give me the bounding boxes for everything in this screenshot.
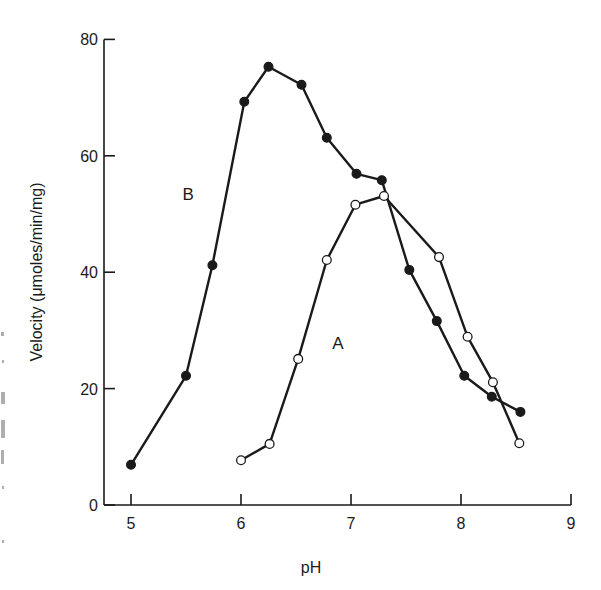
data-point [265,440,274,449]
data-point [240,97,249,106]
chart: 02040608056789 B A pH Velocity (μmoles/m… [0,0,601,590]
data-point [237,456,246,465]
series-a [241,196,519,460]
data-point [351,200,360,209]
data-point [463,332,472,341]
x-tick-label: 6 [237,515,246,532]
x-tick-label: 5 [127,515,136,532]
y-axis-title: Velocity (μmoles/min/mg) [28,182,45,361]
axes: 02040608056789 [80,31,575,532]
data-point [432,317,441,326]
curve-label-b: B [183,185,194,204]
data-point [322,256,331,265]
data-point [297,80,306,89]
scan-artifacts [1,332,5,543]
x-axis-title: pH [301,559,321,576]
x-tick-label: 8 [457,515,466,532]
curve-label-a: A [332,334,344,353]
y-tick-label: 60 [80,148,98,165]
data-point [127,460,136,469]
y-tick-label: 20 [80,381,98,398]
y-tick-label: 80 [80,31,98,48]
x-tick-label: 7 [347,515,356,532]
y-tick-label: 40 [80,264,98,281]
data-point [294,355,303,364]
data-point [377,176,386,185]
data-point [182,371,191,380]
data-point [208,261,217,270]
data-point [405,266,414,275]
markers-a [237,192,524,465]
data-point [487,392,496,401]
data-point [460,371,469,380]
data-point [352,169,361,178]
ph-velocity-chart: 02040608056789 B A pH Velocity (μmoles/m… [0,0,601,590]
data-point [489,378,498,387]
x-tick-label: 9 [567,515,576,532]
data-point [322,133,331,142]
data-point [380,192,389,201]
y-tick-label: 0 [89,497,98,514]
data-point [264,62,273,71]
data-point [435,253,444,262]
data-point [516,408,525,417]
series-line-a [241,196,519,460]
series-layer [127,62,525,469]
data-point [515,439,524,448]
